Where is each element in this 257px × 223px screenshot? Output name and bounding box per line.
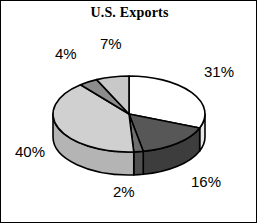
slice-label-2: 2%	[113, 183, 135, 200]
slice-label-4: 4%	[55, 45, 77, 62]
slice-label-16: 16%	[191, 173, 221, 190]
chart-page: U.S. Exports 31% 16% 2% 40% 4% 7%	[0, 0, 257, 223]
slice-label-40: 40%	[15, 143, 45, 160]
pie-top-slices	[53, 76, 205, 152]
slice-label-7: 7%	[100, 35, 122, 52]
slice-label-31: 31%	[204, 63, 234, 80]
